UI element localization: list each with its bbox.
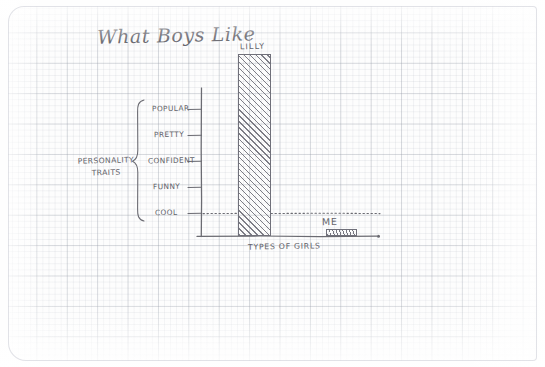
ytick-label-funny: FUNNY bbox=[153, 182, 180, 191]
chart-title: What Boys Like bbox=[97, 22, 256, 47]
x-axis-caption: TYPES OF GIRLS bbox=[248, 241, 321, 251]
bar-lilly bbox=[238, 54, 271, 236]
ytick-label-confident: CONFIDENT bbox=[148, 156, 195, 166]
pencil-drawing-layer bbox=[0, 0, 545, 367]
x-axis-end-dot bbox=[377, 235, 380, 238]
screenshot-canvas: What Boys Like POPULAR PRETTY CONFIDENT … bbox=[0, 0, 545, 367]
y-axis-caption-line1: PERSONALITY bbox=[77, 155, 134, 165]
ytick-label-popular: POPULAR bbox=[152, 104, 190, 114]
bar-me bbox=[326, 229, 357, 236]
bar-label-me: ME bbox=[322, 216, 338, 227]
y-axis-caption-line2: TRAITS bbox=[92, 168, 121, 178]
ytick-label-cool: COOL bbox=[155, 208, 178, 217]
ytick-label-pretty: PRETTY bbox=[154, 130, 184, 140]
bar-label-lilly: LILLY bbox=[240, 42, 265, 52]
y-axis-caption: PERSONALITY TRAITS bbox=[75, 154, 138, 180]
x-axis-line bbox=[197, 236, 377, 237]
